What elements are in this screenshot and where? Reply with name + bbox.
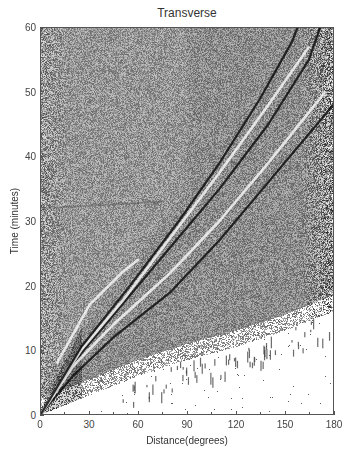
y-tick-label: 0: [30, 410, 36, 421]
y-tick-mark: [40, 415, 44, 416]
y-tick-label: 40: [25, 151, 36, 162]
y-tick-mark: [40, 156, 44, 157]
x-minor-tick-mark: [260, 412, 261, 415]
x-tick-label: 30: [83, 419, 94, 430]
x-minor-tick-mark: [64, 412, 65, 415]
x-tick-mark: [89, 411, 90, 415]
y-tick-mark: [40, 27, 44, 28]
y-tick-label: 10: [25, 345, 36, 356]
x-tick-label: 150: [277, 419, 294, 430]
x-axis-label: Distance(degrees): [146, 435, 228, 446]
x-tick-mark: [40, 411, 41, 415]
x-tick-label: 0: [37, 419, 43, 430]
chart-title: Transverse: [40, 6, 334, 20]
y-tick-label: 50: [25, 86, 36, 97]
y-tick-mark: [40, 221, 44, 222]
x-tick-mark: [285, 411, 286, 415]
x-tick-label: 180: [326, 419, 343, 430]
y-tick-label: 30: [25, 216, 36, 227]
x-tick-mark: [236, 411, 237, 415]
x-tick-mark: [138, 411, 139, 415]
x-tick-label: 90: [181, 419, 192, 430]
y-tick-mark: [40, 91, 44, 92]
y-tick-mark: [40, 350, 44, 351]
y-tick-label: 20: [25, 280, 36, 291]
x-tick-label: 120: [228, 419, 245, 430]
record-section-heatmap: [41, 28, 333, 414]
x-tick-mark: [334, 411, 335, 415]
x-minor-tick-mark: [162, 412, 163, 415]
x-minor-tick-mark: [309, 412, 310, 415]
y-axis-label: Time (minutes): [9, 188, 20, 254]
plot-area: [40, 27, 334, 415]
y-tick-label: 60: [25, 22, 36, 33]
x-tick-mark: [187, 411, 188, 415]
y-tick-mark: [40, 285, 44, 286]
x-tick-label: 60: [132, 419, 143, 430]
x-minor-tick-mark: [113, 412, 114, 415]
x-minor-tick-mark: [211, 412, 212, 415]
